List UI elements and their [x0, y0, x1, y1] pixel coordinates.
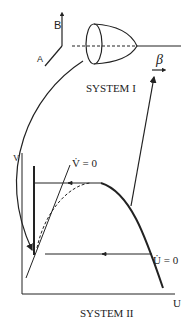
system1-title: SYSTEM I [86, 83, 136, 94]
axis-a-label: A [37, 55, 43, 64]
system1-cone [72, 24, 181, 70]
arrow-system1-to-system2 [17, 61, 83, 250]
u-nullcline-label: U̇ = 0 [153, 255, 178, 266]
system2-curves [26, 165, 163, 288]
v-axis-label: V [13, 154, 20, 163]
arrow-system2-to-system1 [131, 77, 154, 206]
u-axis-label: U [173, 298, 181, 309]
v-nullcline-label: V̇ = 0 [72, 158, 97, 169]
axis-b-label: B [54, 20, 61, 31]
beta-label: β [156, 53, 163, 67]
system2-title: SYSTEM II [80, 308, 133, 319]
diagram-canvas [0, 0, 194, 328]
